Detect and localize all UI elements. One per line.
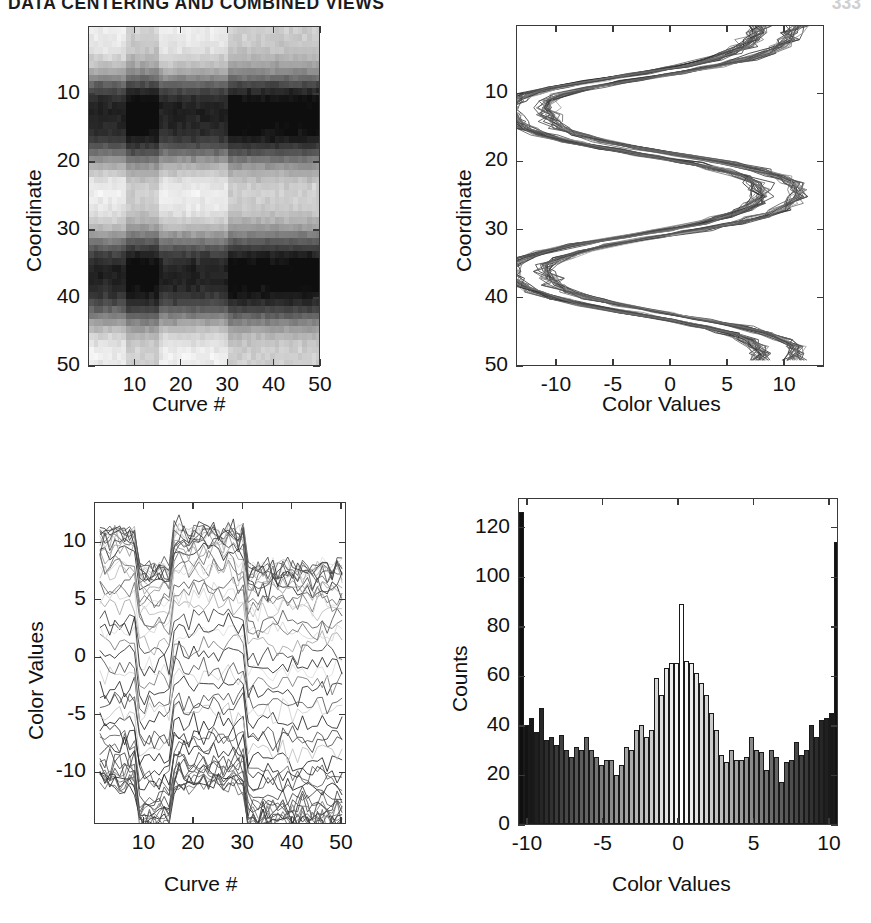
coordinate-profile-curves [517,26,824,366]
coordinate-profile-line [536,26,808,360]
y-tick-mark-right [817,365,824,366]
x-tick-label: 5 [725,831,781,855]
coordinate-profile-line [540,26,808,360]
x-tick-mark [726,359,727,366]
y-tick-label: 0 [454,811,510,835]
y-tick-mark-right [831,725,838,726]
x-tick-label: 0 [642,372,698,396]
x-tick-mark-top [180,26,181,33]
x-tick-label: 10 [756,372,812,396]
y-tick-mark-right [831,577,838,578]
x-tick-label: 20 [165,830,221,854]
x-tick-mark [677,818,678,825]
x-tick-mark [602,818,603,825]
x-tick-mark-top [242,502,243,509]
x-tick-mark [227,359,228,366]
y-tick-mark-right [817,161,824,162]
coordinate-profile-line [516,26,763,360]
x-tick-mark [828,818,829,825]
y-tick-label: 5 [30,586,86,610]
y-tick-mark [88,229,95,230]
coordinate-profile-line [516,26,764,360]
y-tick-mark-right [313,297,320,298]
y-tick-label: 20 [452,147,508,171]
x-tick-mark-top [143,502,144,509]
x-tick-mark [273,359,274,366]
x-tick-mark [180,359,181,366]
y-tick-mark [94,599,101,600]
y-tick-label: 120 [454,514,510,538]
x-tick-label: -5 [575,831,631,855]
y-tick-label: 20 [454,761,510,785]
running-head-title: DATA CENTERING AND COMBINED VIEWS [8,0,385,14]
y-tick-mark [516,229,523,230]
y-tick-mark [518,775,525,776]
x-tick-mark [143,817,144,824]
y-tick-mark [518,676,525,677]
coordinate-profile-line [516,26,765,360]
coordinate-profile-line [516,26,763,360]
x-tick-mark [340,817,341,824]
parallel-curves-lines [95,503,346,824]
coordinate-profile-line [516,26,766,360]
y-tick-label: 60 [454,662,510,686]
y-tick-label: 30 [452,216,508,240]
heatmap-plot-area [88,26,320,366]
y-tick-mark [516,161,523,162]
coordinate-profile-line [544,26,808,360]
x-tick-mark-top [291,502,292,509]
histogram-bars [519,499,837,824]
x-tick-mark-top [726,25,727,32]
y-tick-label: 10 [30,528,86,552]
x-tick-mark-top [828,498,829,505]
y-tick-mark-right [817,93,824,94]
y-tick-mark [88,161,95,162]
y-tick-label: -5 [30,701,86,725]
x-tick-mark-top [227,26,228,33]
x-tick-mark-top [192,502,193,509]
y-tick-mark-right [831,626,838,627]
histogram-plot-area [518,498,838,825]
y-tick-mark-right [313,229,320,230]
parallel-curves-x-axis-label: Curve # [164,872,238,896]
x-tick-mark [134,359,135,366]
x-tick-mark [192,817,193,824]
x-tick-mark-top [783,25,784,32]
y-tick-mark [518,725,525,726]
y-tick-mark [94,542,101,543]
x-tick-mark-top [273,26,274,33]
y-tick-mark-right [339,714,346,715]
y-tick-mark-right [339,657,346,658]
y-tick-mark [518,626,525,627]
y-tick-mark-right [817,229,824,230]
x-tick-mark-top [555,25,556,32]
y-tick-label: 100 [454,563,510,587]
x-tick-label: 10 [801,831,857,855]
coordinate-profile-plot-area [516,25,824,366]
coordinate-profile-line [516,26,764,360]
x-tick-mark-top [602,498,603,505]
y-tick-label: 40 [454,712,510,736]
x-tick-mark-top [319,26,320,33]
coordinate-profile-line [516,26,767,360]
coordinate-profile-line [541,26,809,360]
y-tick-mark [88,297,95,298]
coordinate-profile-line [516,26,763,360]
y-tick-mark [518,824,525,825]
histogram-x-axis-label: Color Values [612,872,731,896]
x-tick-mark-top [669,25,670,32]
page-number: 333 [832,0,861,14]
y-tick-mark [94,657,101,658]
x-tick-mark-top [612,25,613,32]
y-tick-mark [516,365,523,366]
y-tick-mark-right [831,527,838,528]
y-tick-mark-right [339,772,346,773]
coordinate-profile-line [516,26,761,360]
y-tick-mark-right [313,161,320,162]
x-tick-mark [669,359,670,366]
y-tick-label: 50 [452,352,508,376]
y-tick-mark-right [339,542,346,543]
coordinate-profile-line [544,26,806,360]
running-head: DATA CENTERING AND COMBINED VIEWS 333 [0,0,871,16]
x-tick-label: 40 [264,830,320,854]
